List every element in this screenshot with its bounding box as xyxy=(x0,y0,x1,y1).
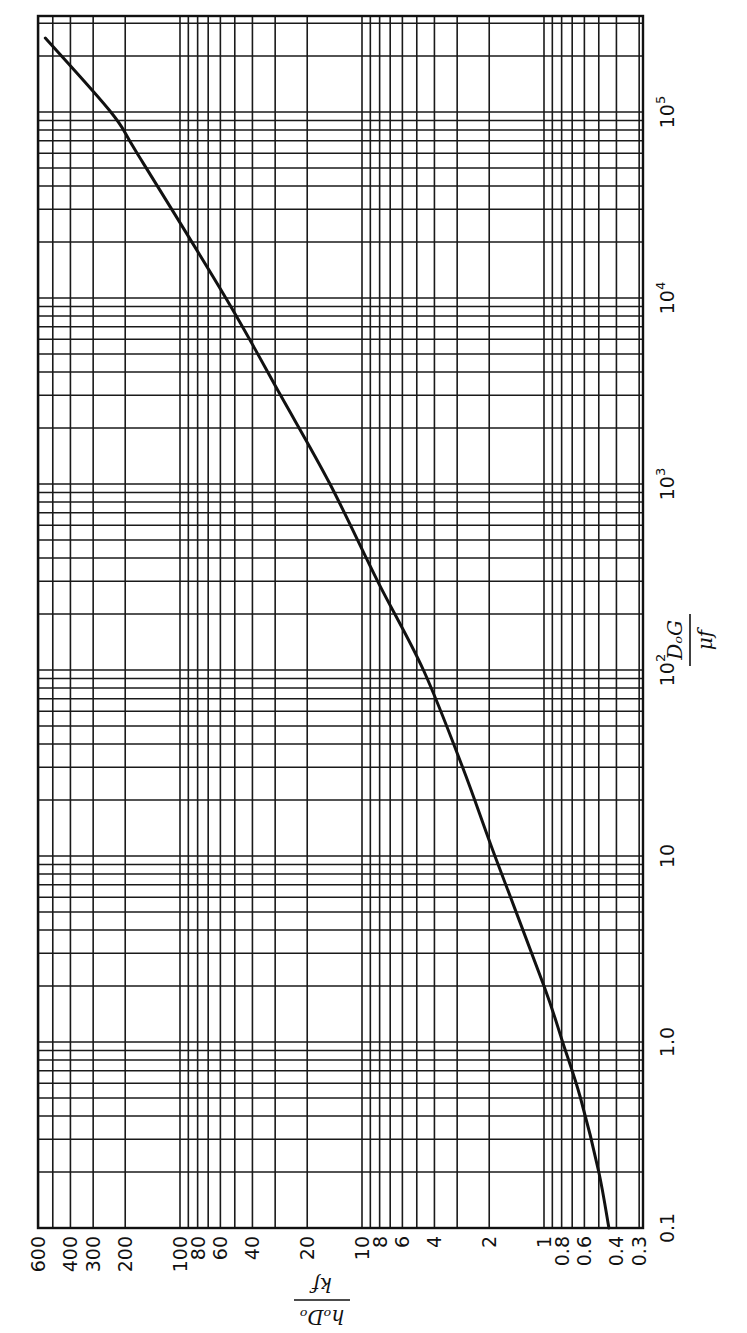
x-tick-label: 105 xyxy=(653,96,678,128)
y-axis-tick-labels: 6004003002001008060402010864210.80.60.40… xyxy=(27,1236,650,1272)
y-tick-label: 2 xyxy=(478,1236,500,1248)
y-tick-label: 4 xyxy=(423,1236,445,1248)
svg-text:0.6: 0.6 xyxy=(573,1236,595,1266)
y-tick-label: 40 xyxy=(241,1236,263,1260)
svg-text:600: 600 xyxy=(27,1236,49,1272)
y-tick-label: 80 xyxy=(187,1236,209,1260)
x-tick-label: 104 xyxy=(653,282,678,314)
svg-text:80: 80 xyxy=(187,1236,209,1260)
x-tick-label: 0.1 xyxy=(656,1213,678,1243)
heat-transfer-correlation-chart: 0.11.010102103104105 6004003002001008060… xyxy=(0,0,747,1333)
x-tick-label: 103 xyxy=(653,468,678,500)
y-tick-label: 400 xyxy=(59,1236,81,1272)
x-tick-label: 10 xyxy=(656,844,678,868)
y-axis-label-numerator: hₒDₒ xyxy=(300,1305,345,1329)
svg-text:0.4: 0.4 xyxy=(605,1236,627,1266)
y-tick-label: 0.8 xyxy=(551,1236,573,1266)
svg-text:20: 20 xyxy=(296,1236,318,1260)
svg-text:60: 60 xyxy=(209,1236,231,1260)
y-tick-label: 6 xyxy=(391,1236,413,1248)
x-axis-label-numerator: DₒG xyxy=(663,620,687,661)
svg-text:4: 4 xyxy=(423,1236,445,1248)
svg-text:40: 40 xyxy=(241,1236,263,1260)
y-tick-label: 0.6 xyxy=(573,1236,595,1266)
svg-text:10: 10 xyxy=(656,844,678,868)
svg-text:0.3: 0.3 xyxy=(628,1236,650,1266)
x-axis-label-denominator: μf xyxy=(693,626,717,650)
y-tick-label: 300 xyxy=(82,1236,104,1272)
y-tick-label: 8 xyxy=(369,1236,391,1248)
x-axis-label: DₒG μf xyxy=(663,614,717,666)
svg-text:0.8: 0.8 xyxy=(551,1236,573,1266)
y-tick-label: 20 xyxy=(296,1236,318,1260)
y-axis-label-denominator: kf xyxy=(309,1273,332,1297)
y-tick-label: 200 xyxy=(114,1236,136,1272)
y-tick-label: 0.4 xyxy=(605,1236,627,1266)
svg-text:105: 105 xyxy=(653,96,678,128)
svg-text:1.0: 1.0 xyxy=(656,1027,678,1057)
y-tick-label: 600 xyxy=(27,1236,49,1272)
y-axis-label: hₒDₒ kf xyxy=(294,1273,350,1329)
svg-text:400: 400 xyxy=(59,1236,81,1272)
svg-text:6: 6 xyxy=(391,1236,413,1248)
plot-grid xyxy=(38,16,643,1228)
svg-text:2: 2 xyxy=(478,1236,500,1248)
svg-text:8: 8 xyxy=(369,1236,391,1248)
svg-text:103: 103 xyxy=(653,468,678,500)
svg-text:104: 104 xyxy=(653,282,678,314)
y-tick-label: 0.3 xyxy=(628,1236,650,1266)
x-axis-tick-labels: 0.11.010102103104105 xyxy=(653,96,678,1243)
svg-text:200: 200 xyxy=(114,1236,136,1272)
svg-text:0.1: 0.1 xyxy=(656,1213,678,1243)
svg-text:300: 300 xyxy=(82,1236,104,1272)
x-tick-label: 1.0 xyxy=(656,1027,678,1057)
y-tick-label: 60 xyxy=(209,1236,231,1260)
data-curve xyxy=(45,38,609,1228)
